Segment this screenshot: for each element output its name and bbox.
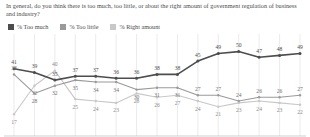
- data-point: [115, 102, 117, 104]
- data-point: [299, 52, 302, 55]
- data-point: [258, 56, 261, 59]
- data-point: [135, 88, 137, 90]
- data-label: 49: [297, 44, 303, 50]
- data-label: 32: [52, 90, 58, 96]
- legend-item-too-little: % Too little: [60, 23, 98, 30]
- data-label: 24: [236, 92, 242, 98]
- chart-plot-area: 1732402524232826272421232423223828323534…: [0, 34, 310, 137]
- data-label: 49: [215, 44, 221, 50]
- legend-label-too-much: % Too much: [17, 23, 48, 30]
- data-point: [95, 81, 97, 83]
- legend-swatch-too-little: [60, 24, 66, 30]
- data-point: [74, 79, 76, 81]
- data-point: [197, 100, 199, 102]
- data-point: [238, 100, 240, 102]
- chart-title: In general, do you think there is too mu…: [6, 2, 304, 19]
- data-label: 27: [297, 86, 303, 92]
- data-label: 23: [277, 107, 283, 113]
- data-point: [258, 96, 260, 98]
- data-label: 45: [195, 52, 201, 58]
- data-label: 34: [113, 87, 119, 93]
- data-point: [74, 98, 76, 100]
- data-label: 23: [236, 107, 242, 113]
- legend-item-too-much: % Too much: [8, 23, 48, 30]
- data-point: [176, 87, 178, 89]
- data-label: 28: [32, 98, 38, 104]
- data-point: [258, 100, 260, 102]
- data-label: 50: [236, 42, 242, 48]
- data-point: [95, 100, 97, 102]
- data-label: 37: [72, 67, 78, 73]
- data-point: [299, 104, 301, 106]
- legend-label-too-little: % Too little: [69, 23, 98, 30]
- data-label: 37: [93, 67, 99, 73]
- data-point: [13, 113, 15, 115]
- data-label: 31: [154, 92, 160, 98]
- data-label: 24: [93, 106, 99, 112]
- legend-label-right-amount: % Right amount: [119, 23, 160, 30]
- legend-swatch-right-amount: [110, 24, 116, 30]
- chart-root: In general, do you think there is too mu…: [0, 0, 310, 137]
- data-point: [135, 77, 138, 80]
- data-label: 26: [256, 88, 262, 94]
- legend-swatch-too-much: [8, 24, 14, 30]
- data-label: 30: [134, 94, 140, 100]
- chart-svg: [0, 34, 310, 137]
- data-label: 35: [72, 85, 78, 91]
- data-label: 38: [154, 65, 160, 71]
- data-label: 17: [11, 119, 17, 125]
- data-label: 31: [175, 92, 181, 98]
- data-point: [217, 52, 220, 55]
- data-point: [53, 79, 56, 82]
- data-point: [278, 54, 281, 57]
- data-point: [278, 96, 280, 98]
- data-label: 25: [72, 104, 78, 110]
- data-label: 36: [134, 69, 140, 75]
- data-point: [197, 94, 199, 96]
- data-label: 24: [256, 106, 262, 112]
- data-point: [237, 50, 240, 53]
- data-point: [13, 73, 15, 75]
- data-label: 23: [113, 107, 119, 113]
- data-label: 41: [11, 59, 17, 65]
- data-label: 38: [175, 65, 181, 71]
- data-point: [278, 102, 280, 104]
- data-point: [94, 75, 97, 78]
- data-label: 38: [11, 65, 17, 71]
- data-point: [33, 85, 35, 87]
- data-point: [299, 94, 301, 96]
- data-label: 26: [277, 88, 283, 94]
- data-point: [176, 73, 179, 76]
- data-point: [217, 94, 219, 96]
- data-label: 27: [195, 86, 201, 92]
- legend-item-right-amount: % Right amount: [110, 23, 160, 30]
- data-label: 40: [52, 61, 58, 67]
- data-point: [74, 75, 77, 78]
- data-label: 22: [297, 109, 303, 115]
- data-label: 35: [52, 71, 58, 77]
- data-label: 36: [113, 69, 119, 75]
- data-label: 21: [215, 111, 221, 117]
- data-label: 27: [175, 100, 181, 106]
- data-label: 24: [195, 106, 201, 112]
- data-point: [156, 87, 158, 89]
- data-label: 32: [32, 90, 38, 96]
- chart-legend: % Too much % Too little % Right amount: [8, 23, 160, 30]
- data-point: [115, 77, 118, 80]
- data-label: 27: [215, 86, 221, 92]
- data-point: [33, 71, 36, 74]
- data-label: 26: [154, 102, 160, 108]
- data-label: 48: [277, 46, 283, 52]
- data-point: [156, 73, 159, 76]
- data-point: [54, 85, 56, 87]
- data-label: 34: [93, 87, 99, 93]
- data-point: [196, 60, 199, 63]
- data-label: 39: [32, 63, 38, 69]
- data-point: [217, 106, 219, 108]
- data-point: [115, 81, 117, 83]
- data-label: 47: [256, 48, 262, 54]
